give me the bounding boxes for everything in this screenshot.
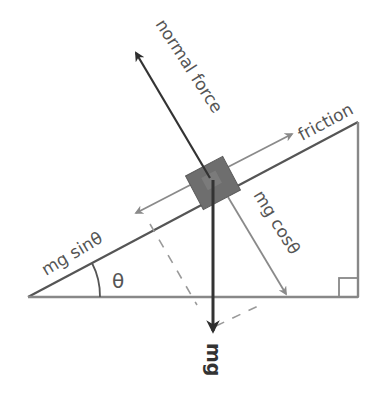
theta-label: θ <box>112 269 124 293</box>
dashed-component-line-2 <box>216 306 258 326</box>
friction-label: friction <box>294 99 356 145</box>
angle-arc <box>92 263 100 297</box>
right-angle-marker <box>339 278 358 297</box>
mg-sin-arrow <box>136 182 196 213</box>
normal-force-label: normal force <box>152 15 227 116</box>
mg-label: mg <box>203 343 225 376</box>
inclined-plane-diagram: θ normal force friction mg sinθ mg cosθ … <box>0 0 385 405</box>
dashed-component-line <box>150 224 197 305</box>
